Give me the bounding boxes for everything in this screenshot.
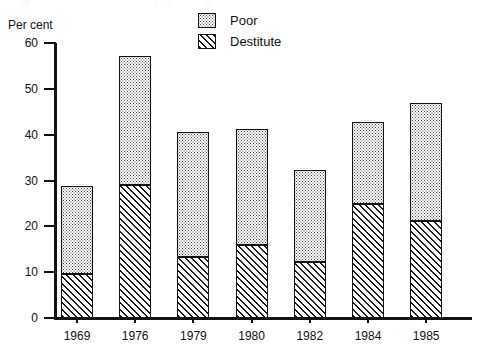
- y-axis-tick-mark: [44, 88, 56, 90]
- bar-segment-poor: [236, 129, 268, 245]
- x-axis-tick-label: 1982: [285, 330, 335, 342]
- bar-1976: [119, 56, 151, 318]
- y-axis-tick-mark: [44, 271, 56, 273]
- bar-segment-poor: [61, 186, 93, 274]
- y-axis-tick-label: 30: [8, 175, 38, 187]
- bar-segment-poor: [119, 56, 151, 185]
- y-axis-tick-mark: [44, 225, 56, 227]
- bar-segment-destitute: [177, 257, 209, 318]
- bar-segment-poor: [177, 132, 209, 257]
- y-axis-tick-label: 0: [8, 312, 38, 324]
- legend-item-destitute: Destitute: [198, 32, 348, 53]
- bar-segment-destitute: [352, 204, 384, 318]
- chart-legend: Poor Destitute: [198, 11, 348, 53]
- y-axis-title: Per cent: [8, 19, 53, 31]
- x-axis-tick-label: 1979: [168, 330, 218, 342]
- y-axis-tick-label: 50: [8, 83, 38, 95]
- legend-item-poor: Poor: [198, 11, 348, 32]
- y-axis-tick-mark: [44, 180, 56, 182]
- bar-chart: Per cent 6050403020100 19691976197919801…: [0, 0, 479, 352]
- bar-1980: [236, 129, 268, 318]
- x-axis-tick-label: 1976: [110, 330, 160, 342]
- bar-1984: [352, 122, 384, 318]
- x-axis-tick-label: 1969: [52, 330, 102, 342]
- bar-1969: [61, 186, 93, 318]
- bar-segment-poor: [410, 103, 442, 221]
- x-axis-tick-label: 1984: [343, 330, 393, 342]
- x-axis-tick-label: 1985: [401, 330, 451, 342]
- legend-swatch-poor-icon: [198, 13, 216, 28]
- legend-label-destitute: Destitute: [230, 34, 281, 49]
- y-axis-tick-mark: [44, 134, 56, 136]
- bar-segment-destitute: [294, 262, 326, 318]
- bar-segment-destitute: [61, 274, 93, 318]
- bar-segment-destitute: [236, 245, 268, 318]
- bar-segment-destitute: [119, 185, 151, 318]
- legend-swatch-destitute-icon: [198, 34, 216, 49]
- y-axis-tick-label: 40: [8, 129, 38, 141]
- bar-1979: [177, 132, 209, 318]
- y-axis-tick-label: 20: [8, 220, 38, 232]
- bar-1985: [410, 103, 442, 318]
- x-axis-tick-label: 1980: [227, 330, 277, 342]
- y-axis-tick-label: 60: [8, 37, 38, 49]
- bar-segment-destitute: [410, 221, 442, 318]
- y-axis-tick-mark: [44, 317, 56, 319]
- bar-segment-poor: [294, 170, 326, 262]
- y-axis-tick-label: 10: [8, 266, 38, 278]
- bar-1982: [294, 170, 326, 318]
- y-axis-tick-mark: [44, 42, 56, 44]
- bar-segment-poor: [352, 122, 384, 204]
- legend-label-poor: Poor: [230, 13, 257, 28]
